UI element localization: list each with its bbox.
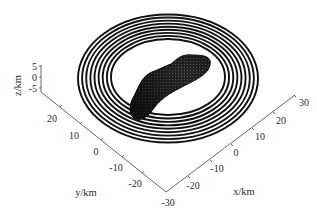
x-axis-label: x/km [233,186,255,197]
x-tick: 20 [276,115,286,126]
x-tick: 10 [255,131,265,142]
y-tick: 10 [69,130,79,141]
z-tick: 0 [32,72,37,83]
z-tick: 5 [32,61,37,72]
x-tick: 0 [234,147,239,158]
y-tick: -30 [161,197,174,208]
z-axis-label: z/km [12,75,23,96]
y-tick: 20 [47,113,57,124]
y-axis-label: y/km [75,187,97,198]
x-tick: 30 [299,97,309,108]
y-tick: -20 [128,178,141,189]
y-tick: 0 [94,146,99,157]
z-tick-labels: 5 0 -5 [29,61,37,94]
asteroid-orbit-3d-plot: 5 0 -5 z/km 20 10 0 -10 -20 -30 y/km -20… [0,0,317,215]
x-tick: -10 [210,163,223,174]
y-tick: -10 [109,162,122,173]
z-tick: -5 [29,83,37,94]
x-tick: -20 [186,180,199,191]
